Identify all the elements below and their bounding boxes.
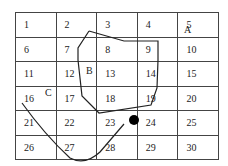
overlay-shapes <box>0 0 228 166</box>
point-dot <box>129 115 139 125</box>
label-c: C <box>45 87 52 98</box>
label-a: A <box>184 24 191 35</box>
label-b: B <box>86 65 93 76</box>
